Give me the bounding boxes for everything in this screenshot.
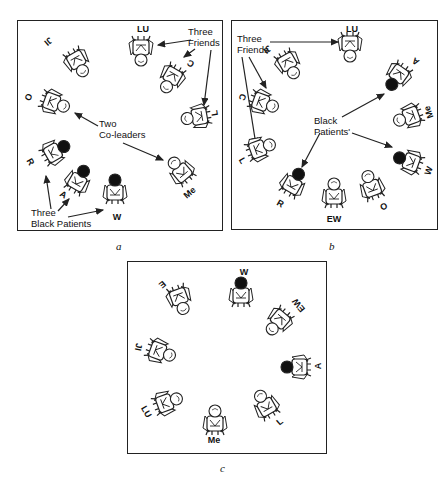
person-figure-icon bbox=[321, 178, 347, 208]
panel-c: WEEWJIALULMe bbox=[127, 261, 327, 454]
panel-a: JILUCLORAWMeThreeFriendsTwoCo-leadersThr… bbox=[17, 20, 223, 231]
arrow bbox=[46, 176, 51, 209]
group-annotation: ThreeFriends bbox=[237, 34, 269, 56]
person-label: W bbox=[113, 213, 122, 222]
person-label: W bbox=[240, 268, 249, 277]
arrow bbox=[75, 113, 98, 126]
person-label: EW bbox=[327, 215, 342, 224]
person-label: LU bbox=[137, 25, 149, 34]
group-annotation: ThreeFriends bbox=[188, 27, 220, 49]
group-annotation: TwoCo-leaders bbox=[99, 119, 145, 141]
panel-caption-b: b bbox=[329, 240, 335, 252]
annotation-line: Co-leaders bbox=[99, 130, 145, 141]
arrow bbox=[302, 133, 320, 167]
annotation-line: Black Patients bbox=[31, 219, 91, 230]
annotation-line: Friends bbox=[237, 45, 269, 56]
arrow bbox=[158, 40, 191, 45]
arrow bbox=[123, 143, 163, 160]
black-patient-figure-icon bbox=[102, 174, 128, 204]
person-label: A bbox=[314, 363, 323, 370]
panel-b: LUJIACMeLWREWOThreeFriendsBlackPatients' bbox=[231, 20, 438, 230]
black-patient-figure-icon bbox=[228, 277, 254, 307]
person-label: Me bbox=[208, 436, 221, 445]
arrow bbox=[342, 94, 384, 117]
panel-caption-a: a bbox=[116, 240, 122, 252]
person-label: JI bbox=[133, 343, 143, 352]
arrow bbox=[352, 133, 392, 147]
panel-caption-c: c bbox=[220, 462, 225, 474]
annotation-line: Friends bbox=[188, 38, 220, 49]
group-annotation: ThreeBlack Patients bbox=[31, 208, 91, 230]
annotation-line: Patients' bbox=[314, 127, 350, 138]
person-figure-icon bbox=[337, 32, 363, 62]
person-figure-icon bbox=[179, 102, 213, 133]
arrow bbox=[184, 49, 195, 57]
person-label: LU bbox=[346, 25, 358, 34]
arrow bbox=[249, 57, 266, 88]
group-annotation: BlackPatients' bbox=[314, 116, 350, 138]
black-patient-figure-icon bbox=[281, 354, 311, 380]
arrow bbox=[204, 50, 211, 105]
person-figure-icon bbox=[202, 405, 228, 435]
person-figure-icon bbox=[128, 36, 154, 66]
